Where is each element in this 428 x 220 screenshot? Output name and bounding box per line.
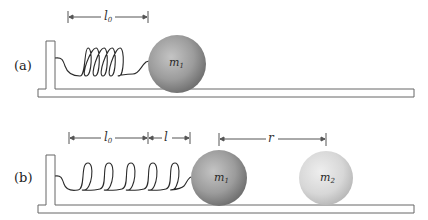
dimension-l-b-label: l — [164, 130, 168, 144]
dimension-l0-b-label: l0 — [104, 130, 113, 145]
dimension-l0-l-b — [69, 132, 190, 144]
panel-a: (a) l0 m1 — [14, 9, 414, 97]
panel-b: (b) l0 l r — [14, 130, 414, 213]
panel-a-label: (a) — [14, 58, 32, 73]
spring-mass-diagram: (a) l0 m1 (b) — [0, 0, 428, 220]
dimension-r-b-label: r — [268, 131, 275, 145]
dimension-l0-a-label: l0 — [104, 9, 113, 24]
spring-b — [55, 163, 191, 190]
panel-b-label: (b) — [14, 170, 32, 185]
spring-a — [55, 48, 149, 76]
